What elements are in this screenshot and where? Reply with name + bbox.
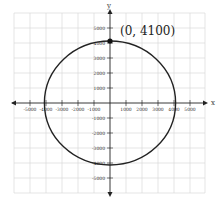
chart: -5000 -4000 -3000 -2000 -1000 1000 2000 … — [0, 0, 220, 209]
y-axis-arrow-down — [108, 192, 113, 197]
x-tick-label: -5000 — [24, 107, 37, 112]
y-tick-label: -5000 — [92, 176, 105, 181]
point-label: (0, 4100) — [120, 24, 175, 38]
y-tick-label: -2000 — [92, 131, 105, 136]
y-tick-label: 3000 — [94, 56, 106, 61]
y-tick-label: -3000 — [92, 146, 105, 151]
x-axis-label: x — [211, 99, 215, 107]
y-tick-label: 1000 — [94, 86, 106, 91]
y-tick-label: 5000 — [94, 26, 106, 31]
x-tick-label: -2000 — [72, 107, 85, 112]
x-tick-label: 4000 — [168, 107, 180, 112]
y-axis-label: y — [106, 2, 111, 10]
x-tick-label: 2000 — [136, 107, 148, 112]
y-tick-label: -1000 — [92, 116, 105, 121]
y-tick-label: 2000 — [94, 71, 106, 76]
x-tick-label: 5000 — [184, 107, 196, 112]
x-axis-arrow-left — [11, 101, 16, 106]
x-tick-label: -4000 — [40, 107, 53, 112]
point-marker — [107, 38, 112, 43]
x-tick-label: 1000 — [120, 107, 132, 112]
x-tick-label: 3000 — [152, 107, 164, 112]
x-tick-label: -1000 — [88, 107, 101, 112]
x-axis-arrow-right — [203, 101, 208, 106]
x-tick-label: -3000 — [56, 107, 69, 112]
